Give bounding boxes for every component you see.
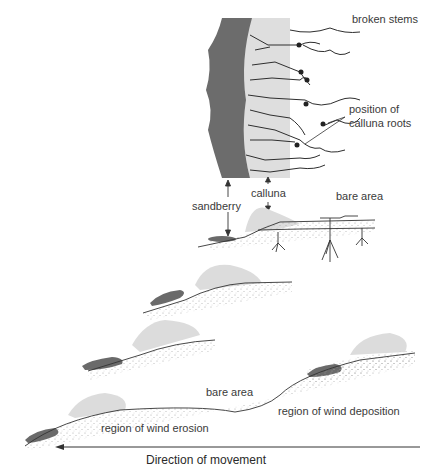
label-calluna: calluna — [251, 187, 286, 200]
sandberry-zone — [206, 18, 252, 178]
cross-section-top — [198, 208, 375, 262]
label-position-of: position of — [349, 103, 399, 116]
label-calluna-roots: calluna roots — [349, 117, 411, 130]
dune-stage-2 — [143, 265, 292, 320]
label-bare-area-bottom: bare area — [206, 386, 253, 399]
label-wind-erosion: region of wind erosion — [101, 422, 209, 435]
diagram-canvas: broken stems position of calluna roots c… — [0, 0, 436, 471]
label-broken-stems: broken stems — [352, 13, 418, 26]
label-sandberry: sandberry — [192, 200, 241, 213]
roots-pointer-arrows — [305, 117, 345, 144]
dune-stage-3 — [82, 320, 216, 380]
label-bare-area-top: bare area — [336, 190, 383, 203]
diagram-graphic — [0, 0, 436, 471]
label-wind-deposition: region of wind deposition — [278, 405, 400, 418]
direction-arrow — [55, 444, 420, 450]
label-direction: Direction of movement — [146, 454, 266, 467]
magnified-plan-view — [206, 18, 360, 178]
root-position-dots — [295, 43, 326, 148]
